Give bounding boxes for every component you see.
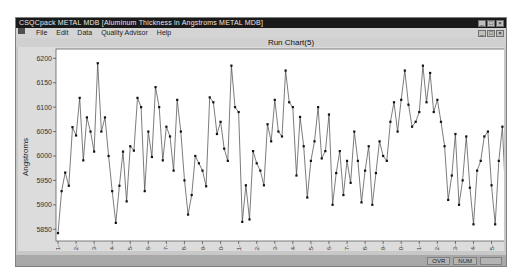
y-tick-label: 6100 bbox=[36, 104, 52, 111]
data-point bbox=[111, 190, 113, 192]
menu-file[interactable]: File bbox=[36, 28, 47, 38]
data-point bbox=[136, 97, 138, 99]
data-point bbox=[82, 159, 84, 161]
data-point bbox=[75, 134, 77, 136]
run-chart: Angstroms 585059005950600060506100615062… bbox=[18, 47, 504, 251]
data-point bbox=[458, 204, 460, 206]
data-point bbox=[151, 156, 153, 158]
x-tick-label: 17- bbox=[344, 245, 350, 251]
x-tick-label: 14- bbox=[290, 245, 296, 251]
data-point bbox=[162, 159, 164, 161]
y-tick-label: 6000 bbox=[36, 152, 52, 159]
data-point bbox=[245, 184, 247, 186]
data-point bbox=[270, 140, 272, 142]
data-point bbox=[498, 160, 500, 162]
menu-quality-advisor[interactable]: Quality Advisor bbox=[101, 28, 148, 38]
data-point bbox=[404, 69, 406, 71]
x-tick-label: 21- bbox=[416, 245, 422, 251]
data-point bbox=[436, 99, 438, 101]
data-point bbox=[107, 155, 109, 157]
doc-restore-button[interactable]: □ bbox=[487, 30, 495, 37]
data-point bbox=[97, 62, 99, 64]
document-system-menu-icon[interactable] bbox=[18, 28, 25, 34]
data-point bbox=[364, 170, 366, 172]
data-point bbox=[462, 179, 464, 181]
data-point bbox=[490, 184, 492, 186]
data-point bbox=[104, 116, 106, 118]
data-point bbox=[79, 97, 81, 99]
data-point bbox=[57, 232, 59, 234]
data-point bbox=[173, 170, 175, 172]
data-point bbox=[353, 130, 355, 132]
data-point bbox=[292, 106, 294, 108]
data-point bbox=[397, 130, 399, 132]
close-button[interactable]: × bbox=[496, 20, 504, 27]
data-point bbox=[371, 204, 373, 206]
x-tick-label: 10- bbox=[218, 245, 224, 251]
x-tick-label: 12- bbox=[254, 245, 260, 251]
data-point bbox=[324, 150, 326, 152]
y-tick-label: 6200 bbox=[36, 55, 52, 62]
data-point bbox=[252, 150, 254, 152]
x-tick-label: 2- bbox=[73, 245, 79, 250]
data-point bbox=[303, 145, 305, 147]
minimize-button[interactable]: _ bbox=[478, 20, 486, 27]
menu-edit[interactable]: Edit bbox=[56, 28, 68, 38]
x-tick-label: 11- bbox=[236, 245, 242, 251]
data-point bbox=[339, 150, 341, 152]
data-point bbox=[263, 184, 265, 186]
data-point bbox=[487, 130, 489, 132]
data-point bbox=[86, 116, 88, 118]
data-point bbox=[274, 99, 276, 101]
y-axis-label: Angstroms bbox=[21, 138, 30, 176]
data-point bbox=[313, 140, 315, 142]
data-point bbox=[238, 111, 240, 113]
chart-area: Angstroms 585059005950600060506100615062… bbox=[18, 47, 504, 251]
data-point bbox=[494, 223, 496, 225]
maximize-button[interactable]: □ bbox=[487, 20, 495, 27]
data-point bbox=[443, 145, 445, 147]
data-point bbox=[310, 160, 312, 162]
data-point bbox=[321, 157, 323, 159]
x-tick-label: 9- bbox=[200, 245, 206, 250]
doc-close-button[interactable]: × bbox=[496, 30, 504, 37]
data-point bbox=[295, 174, 297, 176]
status-bar: OVR NUM bbox=[16, 255, 506, 266]
x-tick-label: 3- bbox=[91, 245, 97, 250]
data-point bbox=[422, 65, 424, 67]
data-point bbox=[93, 150, 95, 152]
data-point bbox=[306, 196, 308, 198]
data-point bbox=[248, 218, 250, 220]
data-point bbox=[425, 101, 427, 103]
x-tick-label: 1- bbox=[55, 245, 61, 250]
y-tick-label: 5950 bbox=[36, 177, 52, 184]
data-point bbox=[400, 99, 402, 101]
doc-minimize-button[interactable]: _ bbox=[478, 30, 486, 37]
data-point bbox=[180, 130, 182, 132]
data-point bbox=[259, 170, 261, 172]
data-point bbox=[429, 72, 431, 74]
data-point bbox=[176, 99, 178, 101]
menu-data[interactable]: Data bbox=[77, 28, 92, 38]
data-point bbox=[483, 135, 485, 137]
data-point bbox=[227, 160, 229, 162]
data-point bbox=[288, 101, 290, 103]
data-point bbox=[216, 133, 218, 135]
data-point bbox=[440, 121, 442, 123]
data-point bbox=[187, 213, 189, 215]
data-point bbox=[158, 106, 160, 108]
data-point bbox=[415, 121, 417, 123]
data-point bbox=[126, 200, 128, 202]
x-tick-label: 13- bbox=[272, 245, 278, 251]
x-tick-label: 8- bbox=[181, 245, 187, 250]
data-point bbox=[241, 221, 243, 223]
data-point bbox=[299, 116, 301, 118]
plot-background bbox=[56, 49, 504, 241]
data-point bbox=[277, 130, 279, 132]
data-point bbox=[386, 160, 388, 162]
data-point bbox=[223, 148, 225, 150]
menu-help[interactable]: Help bbox=[157, 28, 171, 38]
data-point bbox=[433, 111, 435, 113]
status-empty bbox=[480, 257, 502, 265]
data-point bbox=[418, 111, 420, 113]
